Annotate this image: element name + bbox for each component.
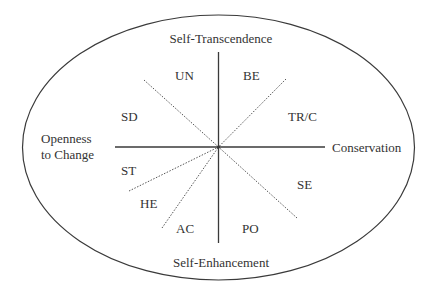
value-label-trc: TR/C <box>288 109 317 124</box>
axis-label-top: Self-Transcendence <box>170 31 273 46</box>
value-label-ac: AC <box>176 221 194 236</box>
divider-he-ac <box>162 147 219 228</box>
value-label-un: UN <box>175 68 194 83</box>
axis-label-bottom: Self-Enhancement <box>173 255 269 270</box>
value-label-se: SE <box>297 177 312 192</box>
axis-label-left-line2: to Change <box>41 147 94 162</box>
value-label-st: ST <box>121 163 136 178</box>
divider-trc-se <box>219 147 298 218</box>
value-label-be: BE <box>243 68 260 83</box>
axis-label-left-line1: Openness <box>41 131 92 146</box>
value-label-he: HE <box>140 196 157 211</box>
value-label-sd: SD <box>121 109 138 124</box>
divider-be-trc <box>219 79 287 147</box>
divider-un-sd <box>144 80 219 147</box>
divider-st-he <box>129 147 219 191</box>
value-label-po: PO <box>242 221 259 236</box>
axis-label-right: Conservation <box>332 140 402 155</box>
values-circumplex-diagram: Self-Transcendence Self-Enhancement Open… <box>0 0 433 294</box>
center-point <box>217 145 220 148</box>
